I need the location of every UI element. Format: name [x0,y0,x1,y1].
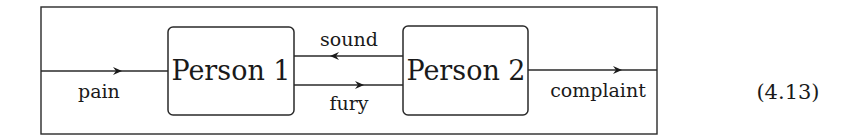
edge-label-sound: sound [320,28,378,50]
equation-number: (4.13) [756,80,819,104]
diagram-canvas: pain Person 1 sound fury Person 2 compla… [0,0,857,139]
edge-label-fury: fury [329,92,368,114]
node-label-person-1: Person 1 [171,55,290,86]
node-label-person-2: Person 2 [406,55,525,86]
edge-label-pain: pain [78,80,120,102]
edge-label-complaint: complaint [550,79,646,101]
